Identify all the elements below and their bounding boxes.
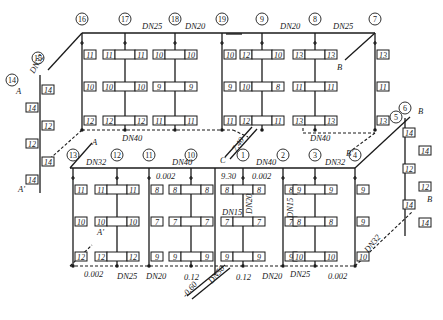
radiator-13-2: 12 (75, 252, 87, 262)
svg-text:12: 12 (105, 117, 113, 126)
radiator-8-0-b: 13 (325, 50, 337, 60)
svg-text:10: 10 (86, 83, 94, 92)
right-radiator-4: 14 (403, 200, 415, 210)
radiator-3-0-b: 9 (325, 185, 337, 195)
marker-a-prime: A' (17, 184, 25, 194)
left-radiator-5: 14 (26, 175, 38, 185)
radiator-13-0: 11 (75, 185, 87, 195)
svg-text:2: 2 (281, 151, 285, 160)
radiator-1-1-a: 7 (221, 217, 233, 227)
svg-text:12: 12 (242, 117, 250, 126)
radiator-16-2: 12 (84, 116, 96, 126)
right-radiator-1: 14 (419, 146, 431, 156)
svg-text:12: 12 (28, 140, 36, 149)
riser-label-11: 11 (143, 149, 155, 161)
radiator-9-0-a: 12 (240, 50, 252, 60)
radiator-9-2-a: 12 (240, 116, 252, 126)
label-ret-slope-right: 0.002 (328, 271, 348, 281)
riser-label-9: 9 (256, 13, 268, 25)
label-ret-012-b: 0.12 (236, 272, 252, 282)
radiator-10-1-b: 7 (201, 217, 213, 227)
radiator-17-2-b: 12 (135, 116, 147, 126)
radiator-10-2-b: 9 (201, 252, 213, 262)
left-radiator-2: 12 (42, 121, 54, 131)
svg-text:8: 8 (297, 218, 301, 227)
label-ret-dn25-b: DN25 (289, 269, 310, 279)
svg-text:11: 11 (379, 83, 386, 92)
svg-text:10: 10 (359, 253, 367, 262)
svg-text:7: 7 (373, 15, 377, 24)
svg-text:11: 11 (187, 117, 194, 126)
svg-text:11: 11 (327, 83, 334, 92)
svg-text:9: 9 (329, 186, 333, 195)
riser-label-2: 2 (277, 149, 289, 161)
svg-text:8: 8 (276, 83, 280, 92)
svg-text:11: 11 (86, 51, 93, 60)
label-bot-dn40-b: DN40 (255, 157, 277, 167)
svg-text:11: 11 (77, 186, 84, 195)
riser-label-13: 13 (67, 149, 79, 161)
radiator-9-2-b: 11 (272, 116, 284, 126)
radiator-8-2-a: 13 (293, 116, 305, 126)
svg-text:14: 14 (44, 158, 52, 167)
label-bot-dn40-a: DN40 (171, 157, 193, 167)
radiator-9-1-b: 8 (272, 82, 284, 92)
left-radiator-4: 14 (42, 157, 54, 167)
heating-system-diagram: 1611101217111110101212181010991111191091… (0, 0, 443, 320)
riser-label-18: 18 (169, 13, 181, 25)
riser-label-19: 19 (216, 13, 228, 25)
right-radiator-3: 12 (419, 182, 431, 192)
svg-text:12: 12 (113, 151, 121, 160)
radiator-1-2-a: 9 (221, 252, 233, 262)
radiator-12-2-b: 12 (127, 252, 139, 262)
svg-text:10: 10 (137, 83, 145, 92)
svg-text:10: 10 (77, 218, 85, 227)
svg-text:9: 9 (361, 186, 365, 195)
label-top-ret-dn40-b: DN40 (309, 133, 331, 143)
radiator-12-0-b: 11 (127, 185, 139, 195)
radiator-7-1: 11 (377, 82, 389, 92)
svg-text:8: 8 (313, 15, 317, 24)
svg-text:14: 14 (8, 76, 16, 85)
radiator-3-2-a: 10 (293, 252, 305, 262)
radiator-7-0: 13 (377, 50, 389, 60)
svg-text:9: 9 (257, 253, 261, 262)
radiator-9-1-a: 10 (240, 82, 252, 92)
label-ret-slope-left: 0.002 (84, 269, 104, 279)
svg-text:1: 1 (241, 151, 245, 160)
svg-text:13: 13 (327, 117, 335, 126)
right-radiator-0: 14 (403, 128, 415, 138)
radiator-3-0-a: 9 (293, 185, 305, 195)
radiator-1-0-b: 8 (253, 185, 265, 195)
left-radiator-3: 12 (26, 139, 38, 149)
svg-text:11: 11 (274, 117, 281, 126)
riser-label-3: 3 (309, 149, 321, 161)
marker-b-right-2: B (427, 194, 432, 204)
radiator-9-0-b: 10 (272, 50, 284, 60)
riser-label-6: 6 (399, 102, 411, 114)
svg-text:13: 13 (379, 117, 387, 126)
svg-text:11: 11 (295, 83, 302, 92)
svg-text:11: 11 (129, 186, 136, 195)
svg-text:13: 13 (379, 51, 387, 60)
label-top-dn25-b: DN25 (332, 21, 353, 31)
left-stair-riser: 1414121214141415 (6, 52, 54, 193)
svg-text:14: 14 (405, 129, 413, 138)
svg-text:9: 9 (205, 253, 209, 262)
svg-text:9: 9 (289, 253, 293, 262)
svg-text:8: 8 (257, 186, 261, 195)
svg-text:13: 13 (327, 51, 335, 60)
riser-label-14: 14 (6, 74, 18, 86)
radiator-1-2-b: 9 (253, 252, 265, 262)
marker-a: A (91, 137, 98, 147)
svg-text:9: 9 (297, 186, 301, 195)
radiator-17-2-a: 12 (103, 116, 115, 126)
svg-text:9: 9 (155, 253, 159, 262)
marker-a-left: A (15, 86, 22, 96)
svg-text:11: 11 (226, 117, 233, 126)
radiator-3-2-b: 10 (325, 252, 337, 262)
svg-text:11: 11 (137, 51, 144, 60)
label-top-dn20-a: DN20 (184, 21, 206, 31)
svg-text:8: 8 (225, 186, 229, 195)
svg-text:10: 10 (327, 253, 335, 262)
